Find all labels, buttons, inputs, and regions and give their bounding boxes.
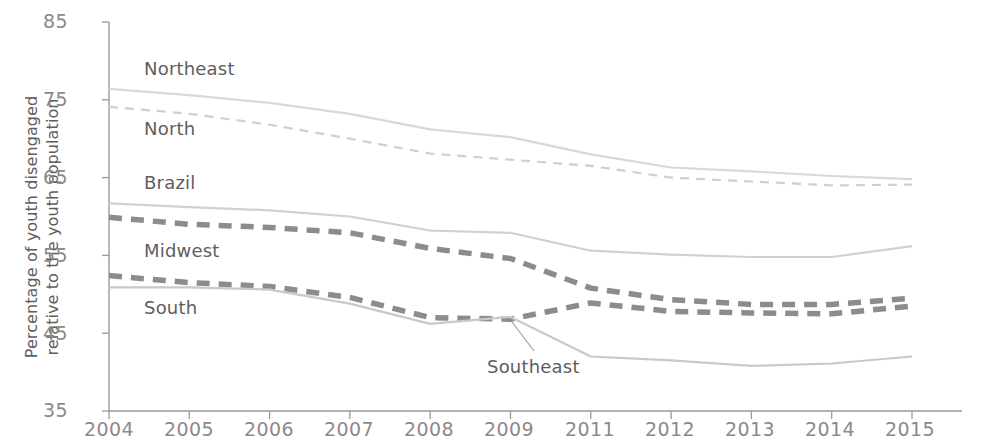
plot-area [0, 0, 986, 446]
series-line-northeast [109, 89, 912, 179]
series-line-south [109, 276, 912, 320]
series-line-midwest [109, 217, 912, 304]
axis-lines [109, 22, 962, 411]
series-line-brazil [109, 203, 912, 257]
chart-root: Percentage of youth disengaged relative … [0, 0, 986, 446]
series-lines [109, 89, 912, 366]
series-line-southeast [109, 287, 912, 366]
x-tick-marks [109, 411, 912, 419]
y-tick-marks [102, 22, 109, 411]
